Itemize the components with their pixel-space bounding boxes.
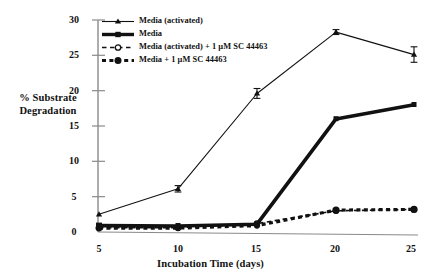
x-tick-label-20: 20 [320, 243, 350, 254]
legend-item-media-activated: Media (activated) [101, 14, 331, 27]
chart-legend: Media (activated) Media Media (activated… [101, 14, 331, 66]
y-axis-title-line-2: Degradation [6, 105, 90, 118]
y-tick-label-0: 0 [59, 226, 89, 237]
x-tick-label-10: 10 [163, 243, 193, 254]
legend-label: Media (activated) + 1 µM SC 44463 [139, 42, 267, 51]
legend-label: Media [139, 29, 162, 38]
legend-sample-thin-solid-triangle [101, 14, 135, 27]
y-tick-label-25: 25 [59, 49, 89, 60]
y-tick-label-20: 20 [59, 85, 89, 96]
series-media-sc44463 [96, 206, 418, 232]
legend-label: Media (activated) [139, 16, 203, 25]
x-tick-label-15: 15 [241, 243, 271, 254]
y-tick-label-10: 10 [59, 155, 89, 166]
y-tick-label-15: 15 [59, 120, 89, 131]
x-axis-title: Incubation Time (days) [0, 258, 421, 269]
y-tick-label-30: 30 [59, 14, 89, 25]
legend-item-media: Media [101, 27, 331, 40]
x-tick-label-5: 5 [84, 243, 114, 254]
legend-sample-thick-dashed-filled-circle [101, 53, 135, 66]
legend-sample-thin-dashed-open-circle [101, 40, 135, 53]
x-axis-line [98, 232, 418, 235]
legend-label: Media + 1 µM SC 44463 [139, 55, 227, 64]
legend-item-media-sc44463: Media + 1 µM SC 44463 [101, 53, 331, 66]
y-tick-label-5: 5 [59, 191, 89, 202]
x-tick-label-25: 25 [396, 243, 421, 254]
series-media [96, 102, 417, 229]
legend-item-media-activated-sc44463: Media (activated) + 1 µM SC 44463 [101, 40, 331, 53]
legend-sample-thick-solid-square [101, 27, 135, 40]
